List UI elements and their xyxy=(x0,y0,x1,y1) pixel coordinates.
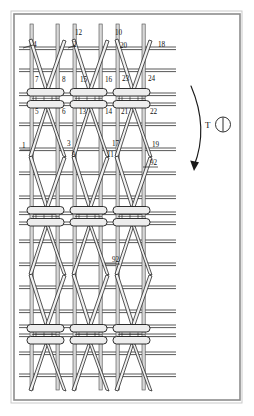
callout-18: 18 xyxy=(158,41,166,49)
callout-3: 3 xyxy=(67,140,71,148)
callout-23: 23 xyxy=(122,75,130,83)
callout-24: 24 xyxy=(148,75,156,83)
callout-19: 19 xyxy=(152,141,160,149)
callout-9: 9 xyxy=(72,151,76,159)
clamp-node xyxy=(70,207,107,227)
callout-8: 8 xyxy=(62,76,66,84)
callout-1: 1 xyxy=(22,142,26,150)
callout-14: 14 xyxy=(105,108,113,116)
clamp-node xyxy=(70,325,107,345)
callout-92-lower: 92 xyxy=(112,256,120,264)
callout-4: 4 xyxy=(33,41,37,49)
callout-7: 7 xyxy=(35,76,39,84)
clamp-node xyxy=(113,89,150,109)
callout-17: 17 xyxy=(112,140,120,148)
callout-13: 13 xyxy=(79,108,87,116)
callout-16: 16 xyxy=(105,76,113,84)
callout-20: 20 xyxy=(120,42,128,50)
torque-label: T xyxy=(205,120,211,130)
callout-5: 5 xyxy=(35,108,39,116)
callout-6: 6 xyxy=(62,108,66,116)
callout-22: 22 xyxy=(150,108,158,116)
callout-11: 11 xyxy=(107,151,114,159)
clamp-node xyxy=(113,207,150,227)
clamp-node xyxy=(70,89,107,109)
callout-12: 12 xyxy=(75,29,83,37)
figure-canvas: T 4 2 12 10 20 18 7 8 15 16 23 24 5 6 13… xyxy=(0,0,254,416)
callout-10: 10 xyxy=(115,29,123,37)
patent-figure: T 4 2 12 10 20 18 7 8 15 16 23 24 5 6 13… xyxy=(0,0,254,416)
callout-92-upper: 92 xyxy=(150,159,158,167)
callout-2: 2 xyxy=(73,41,77,49)
callout-21: 21 xyxy=(121,108,129,116)
callout-15: 15 xyxy=(80,76,88,84)
clamp-node xyxy=(27,89,64,109)
clamp-node xyxy=(113,325,150,345)
clamp-node xyxy=(27,325,64,345)
clamp-node xyxy=(27,207,64,227)
